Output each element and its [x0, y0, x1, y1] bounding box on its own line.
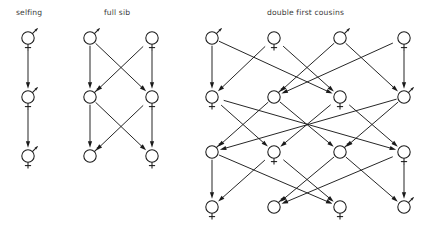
female-cross-icon	[337, 103, 343, 109]
female-cross-icon	[337, 213, 343, 219]
pedigree-edge	[349, 105, 398, 147]
pedigree-node-male	[268, 197, 284, 213]
node-circle	[146, 91, 158, 103]
pedigree-node-female	[398, 146, 410, 165]
node-circle	[206, 146, 218, 158]
edge-arrowhead	[402, 82, 406, 89]
pedigree-edge	[210, 46, 214, 89]
pedigree-node-female	[146, 91, 158, 110]
female-cross-icon	[271, 158, 277, 164]
node-circle	[206, 201, 218, 213]
pedigree-edge	[283, 160, 333, 202]
node-circle	[206, 91, 218, 103]
node-circle	[146, 150, 158, 162]
male-arrow-icon	[216, 28, 221, 33]
node-circle	[268, 32, 280, 44]
female-cross-icon	[149, 162, 155, 168]
pedigree-node-male	[398, 197, 414, 213]
node-circle	[84, 32, 96, 44]
edge-arrowhead	[26, 82, 30, 89]
female-cross-icon	[209, 213, 215, 219]
pedigree-node-female	[268, 32, 280, 51]
edge-arrowhead	[402, 192, 406, 199]
pedigree-edge	[96, 105, 143, 150]
pedigree-edge	[283, 46, 334, 91]
node-circle	[334, 146, 346, 158]
pedigree-edge	[210, 160, 214, 199]
pedigree-figure: selfingfull sibdouble first cousins	[0, 0, 428, 234]
panel-title-double-first-cousins: double first cousins	[267, 8, 344, 17]
male-arrow-icon	[32, 28, 37, 33]
male-arrow-icon	[94, 87, 99, 92]
pedigree-node-male	[334, 142, 350, 158]
pedigree-edges-layer	[26, 41, 406, 204]
female-cross-icon	[271, 44, 277, 50]
pedigree-node-female	[146, 32, 158, 51]
female-cross-icon	[209, 103, 215, 109]
male-arrow-icon	[94, 146, 99, 151]
male-arrow-icon	[32, 87, 37, 92]
edge-arrowhead	[220, 146, 227, 150]
female-cross-icon	[25, 103, 31, 109]
female-cross-icon	[149, 44, 155, 50]
pedigree-node-male	[398, 87, 414, 103]
pedigree-edge	[281, 43, 392, 94]
pedigree-edge	[346, 157, 398, 202]
pedigree-edge	[218, 160, 265, 201]
pedigree-node-female	[206, 91, 218, 110]
edge-arrowhead	[150, 141, 154, 148]
node-circle	[398, 91, 410, 103]
pedigree-edge	[26, 50, 30, 89]
male-arrow-icon	[408, 87, 413, 92]
node-circle	[334, 32, 346, 44]
node-circle	[398, 201, 410, 213]
pedigree-edge	[282, 157, 393, 204]
pedigree-edge	[26, 109, 30, 148]
pedigree-nodes-layer	[22, 28, 414, 219]
pedigree-diagram-svg: selfingfull sibdouble first cousins	[0, 0, 428, 234]
pedigree-node-female	[398, 32, 410, 51]
node-circle	[146, 32, 158, 44]
pedigree-edge	[280, 105, 330, 147]
female-cross-icon	[401, 158, 407, 164]
pedigree-node-hermaphrodite	[22, 146, 38, 168]
node-circle	[22, 150, 34, 162]
pedigree-node-female	[334, 201, 346, 220]
pedigree-node-male	[268, 87, 284, 103]
edge-arrowhead	[88, 141, 92, 148]
node-circle	[268, 201, 280, 213]
node-circle	[22, 32, 34, 44]
female-cross-icon	[401, 44, 407, 50]
pedigree-node-female	[334, 91, 346, 110]
panel-title-full-sib: full sib	[104, 8, 130, 17]
pedigree-node-male	[84, 28, 100, 44]
node-circle	[84, 91, 96, 103]
pedigree-edge	[150, 50, 154, 89]
node-circle	[398, 146, 410, 158]
pedigree-edge	[402, 50, 406, 89]
female-cross-icon	[25, 44, 31, 50]
edge-arrowhead	[389, 146, 396, 150]
pedigree-node-male	[84, 146, 100, 162]
node-circle	[84, 150, 96, 162]
male-arrow-icon	[94, 28, 99, 33]
edge-arrowhead	[210, 82, 214, 89]
pedigree-node-female	[268, 146, 280, 165]
male-arrow-icon	[408, 197, 413, 202]
node-circle	[398, 32, 410, 44]
pedigree-edge	[224, 100, 396, 150]
node-circle	[22, 91, 34, 103]
pedigree-edge	[219, 41, 333, 93]
female-cross-icon	[25, 162, 31, 168]
pedigree-edge	[346, 43, 398, 91]
panel-title-selfing: selfing	[16, 8, 42, 17]
pedigree-edge	[218, 46, 265, 91]
pedigree-node-hermaphrodite	[22, 87, 38, 109]
pedigree-edge	[96, 46, 143, 91]
pedigree-edge	[150, 109, 154, 148]
pedigree-edge	[402, 164, 406, 199]
panel-titles-layer: selfingfull sibdouble first cousins	[16, 8, 344, 17]
node-circle	[206, 32, 218, 44]
pedigree-node-male	[206, 142, 222, 158]
pedigree-node-male	[84, 87, 100, 103]
